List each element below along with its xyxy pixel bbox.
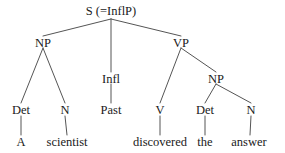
node-s-root: S (=InflP)	[86, 5, 136, 18]
edge-s-to-vp	[111, 19, 181, 36]
node-vp: VP	[173, 37, 189, 50]
node-infl: Infl	[102, 73, 120, 86]
terminal-answer: answer	[231, 136, 266, 149]
node-past: Past	[101, 104, 122, 117]
edge-s-to-np	[43, 19, 111, 36]
edge-np-object-to-n	[216, 84, 251, 103]
node-n-subject: N	[60, 104, 69, 117]
edge-vp-to-v	[160, 48, 181, 103]
edge-np-subject-to-det	[21, 48, 43, 103]
terminal-scientist: scientist	[47, 136, 88, 149]
edge-np-subject-to-n	[43, 48, 65, 103]
edge-n-to-scientist	[65, 116, 67, 135]
edge-vp-to-np-object	[181, 48, 216, 72]
node-n-object: N	[246, 104, 255, 117]
terminal-the: the	[197, 136, 212, 149]
node-np-object: NP	[208, 73, 224, 86]
node-np-subject: NP	[35, 37, 51, 50]
terminal-discovered: discovered	[133, 136, 187, 149]
syntax-tree-figure: S (=InflP) NP VP Infl NP Det N Past V De…	[0, 0, 285, 153]
edge-np-object-to-det	[205, 84, 216, 103]
node-det-subject: Det	[12, 104, 30, 117]
edge-n-to-answer	[250, 116, 251, 135]
terminal-a: A	[16, 136, 25, 149]
tree-branch-lines	[0, 0, 285, 153]
node-det-object: Det	[196, 104, 214, 117]
node-v: V	[155, 104, 164, 117]
